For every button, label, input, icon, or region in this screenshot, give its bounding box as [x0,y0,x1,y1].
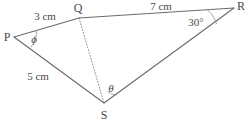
edge-qs-diagonal [79,18,104,103]
angle-arc-theta [107,91,116,95]
edge-rs [104,8,234,103]
angle-arc-group [31,10,217,96]
edge-group [14,8,234,103]
edge-pq [14,18,79,37]
figure-canvas [0,0,249,123]
geometry-figure: P Q R S 3 cm 7 cm 5 cm ϕ θ 30° [0,0,249,123]
angle-arc-phi [31,30,37,47]
edge-sp [14,37,104,103]
